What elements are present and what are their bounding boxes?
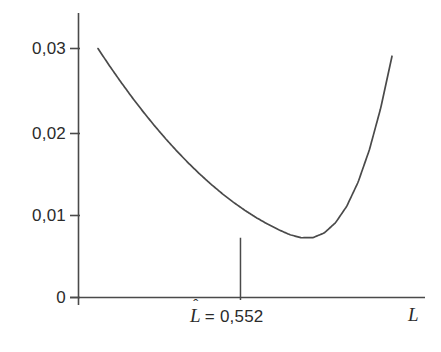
y-tick-label-0-02: 0,02 bbox=[8, 125, 66, 142]
estimate-equals-sign: = bbox=[205, 307, 215, 326]
chart-figure: 0,03 0,02 0,01 0 Lˆ=0,552 L bbox=[0, 0, 441, 352]
y-tick-label-0: 0 bbox=[8, 289, 66, 306]
plot-area bbox=[0, 0, 441, 352]
estimate-symbol-with-hat: Lˆ bbox=[190, 306, 201, 326]
y-tick-label-0-01: 0,01 bbox=[8, 207, 66, 224]
estimate-annotation: Lˆ=0,552 bbox=[190, 306, 263, 326]
objective-function-curve bbox=[98, 49, 392, 238]
y-tick-label-0-03: 0,03 bbox=[8, 40, 66, 57]
circumflex-accent-icon: ˆ bbox=[193, 297, 198, 312]
x-axis-label: L bbox=[408, 305, 419, 324]
estimate-value: 0,552 bbox=[220, 307, 264, 326]
